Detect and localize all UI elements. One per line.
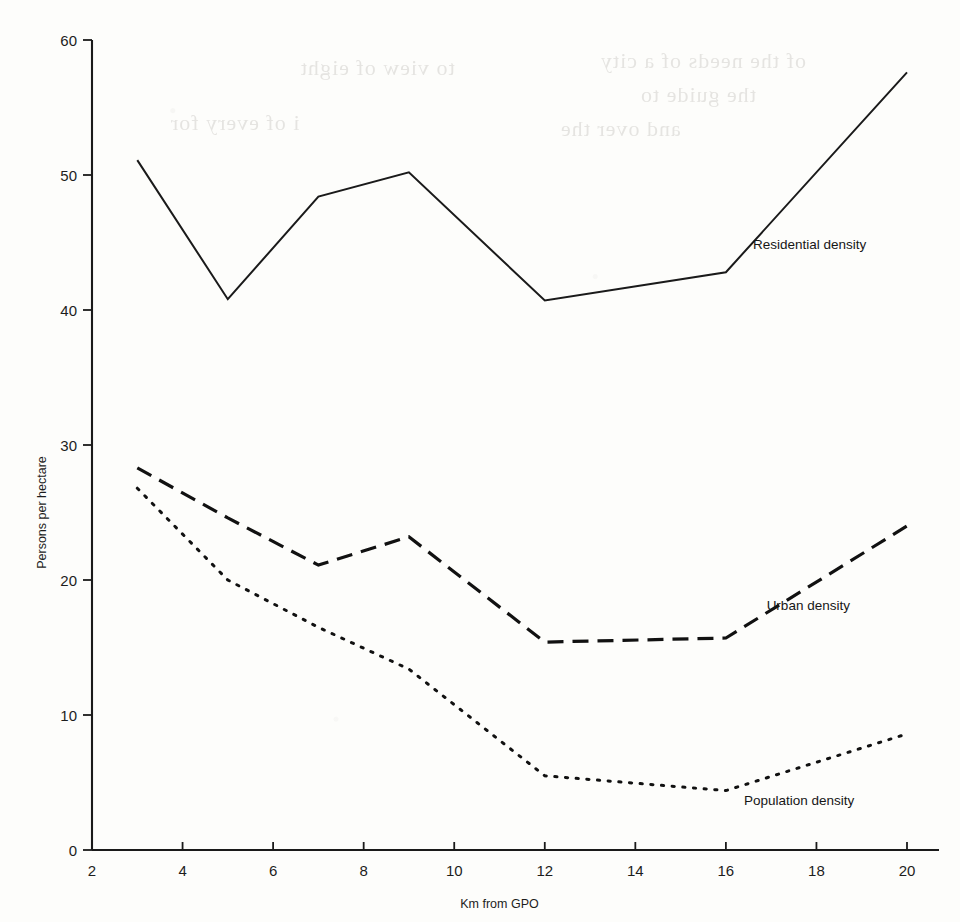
y-axis-title: Persons per hectare [35, 456, 49, 569]
series-label-population-density: Population density [744, 793, 855, 808]
x-tick-label: 20 [899, 862, 916, 879]
series-line-population-density [137, 488, 907, 790]
x-tick-label: 10 [446, 862, 463, 879]
series-label-urban-density: Urban density [767, 598, 851, 613]
y-tick-label: 10 [60, 707, 77, 724]
y-tick-label: 30 [60, 437, 77, 454]
chart-page: of the needs of a city the guide to and … [0, 0, 960, 922]
x-tick-label: 12 [536, 862, 553, 879]
x-tick-label: 4 [178, 862, 186, 879]
x-tick-label: 2 [88, 862, 96, 879]
x-tick-label: 16 [718, 862, 735, 879]
y-tick-label: 40 [60, 302, 77, 319]
series-line-urban-density [137, 468, 907, 642]
line-chart: 01020304050602468101214161820Persons per… [0, 0, 960, 922]
y-tick-label: 60 [60, 32, 77, 49]
x-tick-label: 6 [269, 862, 277, 879]
y-tick-label: 20 [60, 572, 77, 589]
x-tick-label: 8 [359, 862, 367, 879]
y-tick-label: 50 [60, 167, 77, 184]
x-tick-label: 18 [808, 862, 825, 879]
x-tick-label: 14 [627, 862, 644, 879]
x-axis-title: Km from GPO [460, 897, 539, 911]
series-line-residential-density [137, 72, 907, 300]
y-tick-label: 0 [69, 842, 77, 859]
series-label-residential-density: Residential density [753, 237, 867, 252]
